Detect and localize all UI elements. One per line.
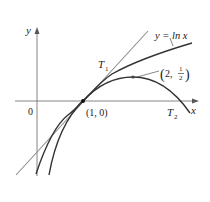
point-1-0-label: (1, 0) xyxy=(86,107,108,119)
svg-text:2,: 2, xyxy=(165,68,173,79)
ln-x-label: y = ln x xyxy=(154,30,188,41)
point-2-half xyxy=(131,75,134,78)
origin-label: 0 xyxy=(28,106,33,117)
svg-text:T: T xyxy=(98,58,105,70)
t1-label: T 1 xyxy=(98,58,109,73)
t1-tangent-line xyxy=(16,31,148,175)
svg-text:2: 2 xyxy=(174,113,178,121)
svg-text:2: 2 xyxy=(179,74,183,82)
y-axis-label: y xyxy=(25,24,31,36)
svg-text:1: 1 xyxy=(179,65,183,73)
point-2-half-label: ( 2, 1 2 ) xyxy=(160,65,190,83)
svg-text:): ) xyxy=(185,67,190,83)
x-axis-label: x xyxy=(190,104,196,116)
t2-label: T 2 xyxy=(167,106,178,121)
point-1-0 xyxy=(81,99,85,103)
taylor-polynomial-diagram: y x 0 y = ln x T 1 T 2 (1, 0) ( 2, 1 2 ) xyxy=(0,0,210,202)
svg-text:T: T xyxy=(167,106,174,118)
y-axis-arrow-icon xyxy=(35,27,40,34)
point-label-leader xyxy=(137,71,159,77)
t2-parabola xyxy=(49,77,190,175)
svg-text:1: 1 xyxy=(105,65,109,73)
x-axis-arrow-icon xyxy=(192,99,199,104)
